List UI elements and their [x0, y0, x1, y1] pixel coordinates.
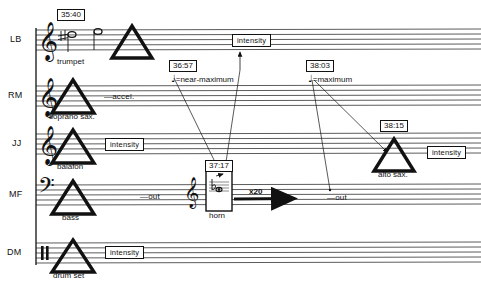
- instrument-label-horn: horn: [209, 212, 225, 220]
- staff-lines-JJ: [36, 133, 481, 154]
- instrument-label-alto-sax: alto sax.: [378, 171, 408, 179]
- timecode-36-57[interactable]: 36:57: [169, 60, 197, 72]
- entry-triangle-alto-sax: [374, 139, 414, 171]
- staff-lines-RM: [36, 85, 481, 106]
- intensity-box-DM[interactable]: intensity: [105, 246, 144, 259]
- instrument-label-soprano-sax: soprano sax.: [49, 113, 95, 121]
- timecode-38-15[interactable]: 38:15: [380, 120, 408, 132]
- timecode-35-40[interactable]: 35:40: [57, 9, 85, 21]
- intensity-box-LB[interactable]: intensity: [232, 34, 271, 47]
- timecode-37-17[interactable]: 37:17: [205, 160, 233, 172]
- connector-3803-to-altosax: [314, 80, 387, 152]
- tempo-mark-near-maximum: ♩=near-maximum: [171, 74, 234, 84]
- tempo-mark-near-maximum-text: =near-maximum: [176, 75, 234, 84]
- entry-triangle-drum-set: [52, 240, 94, 272]
- direction-out-mf: —out: [140, 193, 160, 201]
- instrument-label-bass: bass: [62, 214, 79, 222]
- instrument-label-trumpet: trumpet: [57, 58, 84, 66]
- performer-label-DM: DM: [7, 248, 22, 257]
- instrument-label-balafon: balafon: [57, 163, 83, 171]
- x20-arrow: [234, 199, 295, 200]
- performer-label-RM: RM: [8, 91, 23, 100]
- direction-out-right: —out: [327, 194, 347, 202]
- entry-triangle-balafon: [52, 130, 94, 163]
- timecode-38-03[interactable]: 38:03: [306, 60, 334, 72]
- direction-accel: —accel.: [104, 93, 134, 101]
- connector-3803-to-out: [312, 80, 330, 190]
- intensity-box-JJ[interactable]: intensity: [105, 138, 144, 151]
- instrument-label-drum-set: drum set: [53, 272, 84, 280]
- entry-triangle-trumpet: [112, 26, 152, 58]
- entry-triangle-bass: [52, 181, 94, 214]
- tempo-mark-maximum: ♩=maximum: [308, 74, 352, 84]
- intensity-box-alto-sax[interactable]: intensity: [427, 146, 466, 159]
- performer-label-MF: MF: [9, 190, 23, 199]
- direction-x20: x20: [249, 188, 262, 196]
- clef-treble-horn: 𝄞: [184, 179, 199, 205]
- clef-bass-MF: 𝄢: [38, 173, 55, 203]
- tempo-mark-maximum-text: =maximum: [313, 75, 352, 84]
- staff-lines-DM: [36, 242, 481, 263]
- entry-triangle-soprano-sax: [52, 80, 94, 113]
- performer-label-JJ: JJ: [12, 139, 22, 148]
- performer-label-LB: LB: [10, 35, 22, 44]
- anchor-dot-out: [329, 189, 331, 191]
- clef-treble-LB: 𝄞: [38, 20, 58, 62]
